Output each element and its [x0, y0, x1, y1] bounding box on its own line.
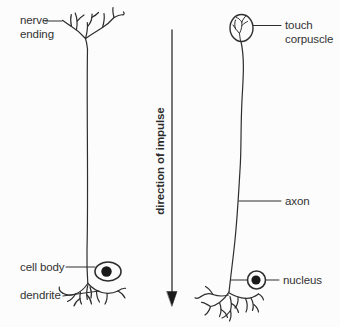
dendrite-label: dendrite — [20, 289, 61, 303]
cell-body-label: cell body — [20, 261, 65, 275]
touch-corpuscle-branches — [233, 16, 248, 42]
right-axon-line — [229, 42, 243, 293]
impulse-arrow — [167, 30, 177, 306]
nucleus-label: nucleus — [283, 274, 322, 288]
nucleus-dot — [251, 275, 260, 284]
nerve-ending-branches — [63, 8, 125, 50]
impulse-arrowhead-icon — [167, 292, 177, 307]
dendrite-leader-line — [63, 291, 99, 296]
nerve-ending-label-line1: nerve — [20, 14, 54, 28]
neuron-diagram: nerve ending touch corpuscle axon nucleu… — [0, 0, 340, 327]
cell-body-nucleus-dot — [101, 266, 111, 276]
axon-label: axon — [285, 195, 310, 209]
touch-corpuscle-label-line2: corpuscle — [285, 33, 333, 47]
nerve-ending-label-line2: ending — [20, 28, 54, 42]
touch-corpuscle-label-line1: touch — [285, 19, 333, 33]
left-axon-line — [87, 49, 88, 284]
nerve-ending-label: nerve ending — [20, 14, 54, 41]
right-neuron — [195, 15, 281, 322]
touch-corpuscle-label: touch corpuscle — [285, 19, 333, 46]
direction-of-impulse-label: direction of impulse — [154, 107, 166, 214]
right-dendrite-branches — [195, 287, 264, 322]
